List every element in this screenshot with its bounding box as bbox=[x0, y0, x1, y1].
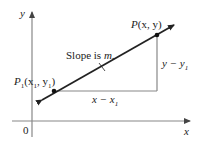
slope-line bbox=[42, 25, 174, 100]
point-p bbox=[155, 33, 160, 38]
origin-label: 0 bbox=[23, 124, 29, 136]
slope-annotation: Slope is m. bbox=[66, 49, 115, 61]
rise-label: y − y1 bbox=[161, 57, 188, 72]
point-p1-label: P1(x1, y1) bbox=[13, 75, 55, 90]
point-p-label: P(x, y) bbox=[130, 18, 162, 31]
run-label: x − x1 bbox=[91, 93, 118, 108]
x-axis-label: x bbox=[183, 125, 189, 137]
y-axis-label: y bbox=[19, 7, 25, 19]
slope-diagram: y x 0 Slope is m. P(x, y) P1(x1, y1) x −… bbox=[0, 0, 198, 146]
point-p1 bbox=[52, 89, 57, 94]
